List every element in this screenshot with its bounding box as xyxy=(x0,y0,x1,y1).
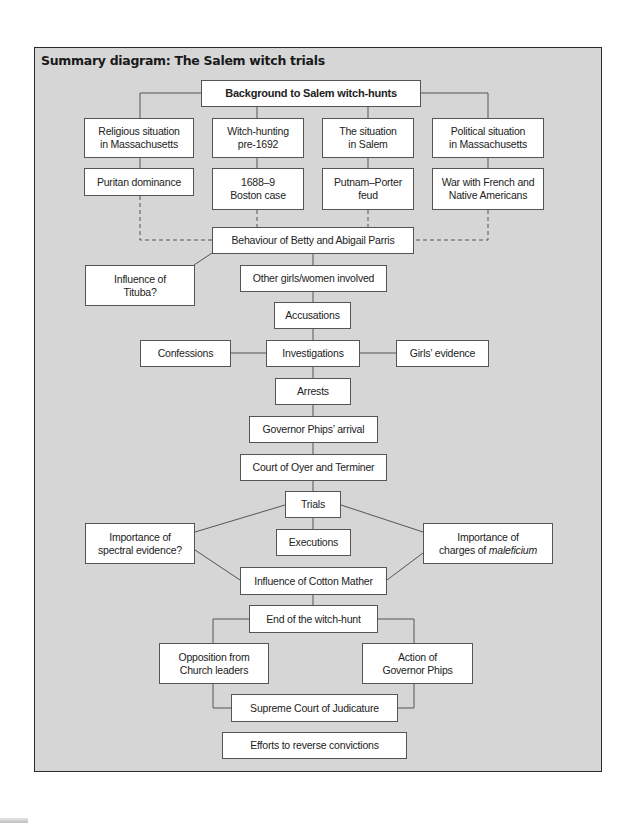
node-label: Investigations xyxy=(282,347,343,360)
node-label-italic: maleficium xyxy=(489,544,537,556)
node-label: Trials xyxy=(301,498,325,511)
connector-spectral-to-cottonmather xyxy=(195,550,240,580)
node-efforts: Efforts to reverse convictions xyxy=(222,732,407,759)
node-label: Action of Governor Phips xyxy=(382,651,452,677)
node-cottonmather: Influence of Cotton Mather xyxy=(240,567,387,595)
node-salem: The situation in Salem xyxy=(322,118,414,158)
node-actionphips: Action of Governor Phips xyxy=(362,643,473,684)
node-endhunt: End of the witch-hunt xyxy=(249,605,378,633)
node-label: Religious situation in Massachusetts xyxy=(98,125,179,151)
page-corner-mark xyxy=(0,818,28,823)
node-label: Puritan dominance xyxy=(97,176,181,189)
connector-opposition-to-supreme xyxy=(213,684,231,708)
node-label: Confessions xyxy=(158,347,214,360)
connector-behaviour-to-tituba xyxy=(194,253,212,265)
node-spectral: Importance of spectral evidence? xyxy=(85,523,195,564)
node-puritan: Puritan dominance xyxy=(84,168,194,196)
node-label: Importance of charges of maleficium xyxy=(439,531,537,557)
node-label: Court of Oyer and Terminer xyxy=(253,461,375,474)
node-war: War with French and Native Americans xyxy=(432,168,544,210)
node-political: Political situation in Massachusetts xyxy=(432,118,544,158)
connector-maleficium-to-cottonmather xyxy=(387,553,423,580)
connector-trials-to-maleficium xyxy=(341,505,423,532)
connector-endhunt-to-actionphips xyxy=(378,619,414,643)
node-label: Other girls/women involved xyxy=(253,272,374,285)
connector-background-to-religious xyxy=(140,93,201,118)
node-label: Political situation in Massachusetts xyxy=(449,125,527,151)
node-background: Background to Salem witch-hunts xyxy=(201,80,421,107)
node-girlsevidence: Girls’ evidence xyxy=(396,340,489,367)
connector-war-to-behaviour xyxy=(414,210,488,240)
node-othergirls: Other girls/women involved xyxy=(240,265,387,292)
node-accusations: Accusations xyxy=(274,302,351,329)
node-label: Accusations xyxy=(285,309,339,322)
connector-actionphips-to-supreme xyxy=(398,684,414,708)
node-oyer: Court of Oyer and Terminer xyxy=(240,454,387,481)
connector-puritan-to-behaviour xyxy=(140,196,212,240)
node-label: End of the witch-hunt xyxy=(266,613,360,626)
node-confessions: Confessions xyxy=(140,340,231,367)
node-label: Importance of spectral evidence? xyxy=(98,531,182,557)
node-label: Influence of Tituba? xyxy=(114,273,166,299)
node-trials: Trials xyxy=(285,491,341,518)
node-religious: Religious situation in Massachusetts xyxy=(84,118,194,158)
node-label: Supreme Court of Judicature xyxy=(250,702,379,715)
node-behaviour: Behaviour of Betty and Abigail Parris xyxy=(212,227,414,254)
node-tituba: Influence of Tituba? xyxy=(85,265,195,306)
node-arrests: Arrests xyxy=(275,378,351,405)
node-label: Influence of Cotton Mather xyxy=(254,575,373,588)
connector-endhunt-to-opposition xyxy=(213,619,249,643)
node-label: Opposition from Church leaders xyxy=(178,651,249,677)
connector-trials-to-spectral xyxy=(195,505,285,532)
node-label: Executions xyxy=(289,536,338,549)
node-label: Governor Phips’ arrival xyxy=(263,423,365,436)
node-label: Background to Salem witch-hunts xyxy=(225,87,397,100)
node-label: Putnam–Porter feud xyxy=(334,176,402,202)
node-label: Girls’ evidence xyxy=(410,347,475,360)
node-putnam: Putnam–Porter feud xyxy=(322,168,414,210)
node-label: Behaviour of Betty and Abigail Parris xyxy=(231,234,394,247)
node-label: The situation in Salem xyxy=(339,125,397,151)
node-supreme: Supreme Court of Judicature xyxy=(231,694,398,722)
node-label: Efforts to reverse convictions xyxy=(250,739,379,752)
node-opposition: Opposition from Church leaders xyxy=(159,643,269,684)
node-label: War with French and Native Americans xyxy=(442,176,535,202)
node-witchhunting: Witch-hunting pre-1692 xyxy=(212,118,304,158)
node-governorarrival: Governor Phips’ arrival xyxy=(249,416,378,443)
node-executions: Executions xyxy=(276,529,351,556)
connector-background-to-political xyxy=(421,93,488,118)
node-label: Arrests xyxy=(297,385,329,398)
node-maleficium: Importance of charges of maleficium xyxy=(423,523,553,564)
node-label: 1688–9 Boston case xyxy=(230,176,286,202)
node-boston: 1688–9 Boston case xyxy=(212,168,304,210)
node-investigations: Investigations xyxy=(266,340,360,367)
node-label: Witch-hunting pre-1692 xyxy=(227,125,289,151)
